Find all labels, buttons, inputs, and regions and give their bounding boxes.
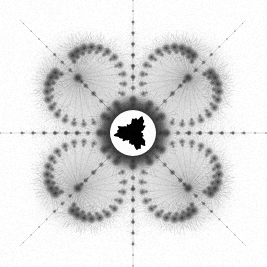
fractal-image (0, 0, 267, 267)
